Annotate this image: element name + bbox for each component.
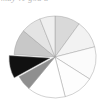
- pie-chart: [0, 8, 105, 105]
- pie-chart-svg: [0, 8, 105, 105]
- figure-screenshot: may ve gou a: [0, 0, 105, 105]
- pie-slice-group: [9, 16, 96, 98]
- clipped-header-text: may ve gou a: [1, 0, 48, 3]
